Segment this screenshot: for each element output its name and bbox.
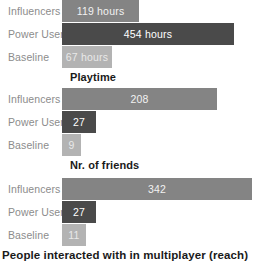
chart-row: Power Users 27 <box>0 111 266 133</box>
chart-row: Influencers 342 <box>0 178 266 200</box>
chart-title: Nr. of friends <box>0 159 266 171</box>
chart-row: Baseline 67 hours <box>0 46 266 68</box>
chart-nr-of-friends: Influencers 208 Power Users 27 Baseline … <box>0 88 266 178</box>
bar-power-users[interactable]: 27 <box>62 111 96 133</box>
bar-value-label: 27 <box>73 117 85 128</box>
category-label-power-users: Power Users <box>0 201 62 223</box>
chart-rows: Influencers 119 hours Power Users 454 ho… <box>0 0 266 68</box>
chart-title: Playtime <box>0 71 266 83</box>
bar-baseline[interactable]: 11 <box>62 224 86 246</box>
bar-power-users[interactable]: 454 hours <box>62 23 234 45</box>
bar-track: 9 <box>62 134 266 156</box>
chart-row: Influencers 208 <box>0 88 266 110</box>
bar-value-label: 208 <box>130 94 148 105</box>
chart-row: Power Users 27 <box>0 201 266 223</box>
category-label-power-users: Power Users <box>0 111 62 133</box>
bar-track: 27 <box>62 111 266 133</box>
category-label-power-users: Power Users <box>0 23 62 45</box>
bar-value-label: 11 <box>68 230 79 241</box>
category-label-influencers: Influencers <box>0 0 62 22</box>
bar-track: 11 <box>62 224 266 246</box>
bar-value-label: 454 hours <box>124 29 173 40</box>
bar-value-label: 119 hours <box>77 6 125 17</box>
chart-row: Baseline 11 <box>0 224 266 246</box>
chart-rows: Influencers 208 Power Users 27 Baseline … <box>0 88 266 156</box>
chart-people-interacted-reach: Influencers 342 Power Users 27 Baseline … <box>0 178 266 266</box>
chart-row: Power Users 454 hours <box>0 23 266 45</box>
category-label-baseline: Baseline <box>0 134 62 156</box>
category-label-influencers: Influencers <box>0 88 62 110</box>
bar-baseline[interactable]: 67 hours <box>62 46 112 68</box>
bar-value-label: 67 hours <box>66 52 108 63</box>
bar-influencers[interactable]: 119 hours <box>62 0 139 22</box>
bar-influencers[interactable]: 208 <box>62 88 217 110</box>
bar-track: 67 hours <box>62 46 266 68</box>
chart-playtime: Influencers 119 hours Power Users 454 ho… <box>0 0 266 88</box>
bar-power-users[interactable]: 27 <box>62 201 96 223</box>
bar-influencers[interactable]: 342 <box>62 178 252 200</box>
chart-row: Baseline 9 <box>0 134 266 156</box>
bar-track: 119 hours <box>62 0 266 22</box>
bar-value-label: 9 <box>68 140 74 151</box>
bar-value-label: 27 <box>73 207 85 218</box>
category-label-baseline: Baseline <box>0 46 62 68</box>
category-label-baseline: Baseline <box>0 224 62 246</box>
bar-baseline[interactable]: 9 <box>62 134 81 156</box>
chart-row: Influencers 119 hours <box>0 0 266 22</box>
category-label-influencers: Influencers <box>0 178 62 200</box>
bar-track: 454 hours <box>62 23 266 45</box>
chart-title: People interacted with in multiplayer (r… <box>0 249 266 261</box>
bar-track: 208 <box>62 88 266 110</box>
bar-track: 342 <box>62 178 266 200</box>
chart-rows: Influencers 342 Power Users 27 Baseline … <box>0 178 266 246</box>
bar-track: 27 <box>62 201 266 223</box>
bar-value-label: 342 <box>148 184 166 195</box>
